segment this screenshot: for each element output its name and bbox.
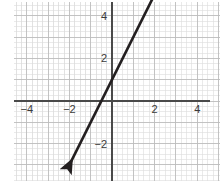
y-tick-label: 4 bbox=[101, 10, 107, 22]
y-tick-label: −2 bbox=[94, 138, 107, 150]
x-tick-label: −4 bbox=[21, 103, 34, 115]
coordinate-plane-figure: −4−22442−2−4 bbox=[0, 0, 220, 181]
y-tick-label: 2 bbox=[101, 52, 107, 64]
x-tick-label: 4 bbox=[194, 103, 200, 115]
x-tick-label: 2 bbox=[152, 103, 158, 115]
x-tick-label: −2 bbox=[63, 103, 76, 115]
y-tick-label: −4 bbox=[94, 180, 107, 181]
graph-canvas: −4−22442−2−4 bbox=[0, 0, 220, 181]
